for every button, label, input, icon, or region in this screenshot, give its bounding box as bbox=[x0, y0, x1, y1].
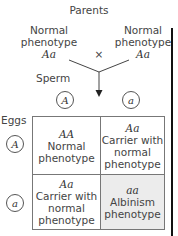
cell-phenotype-line: phenotype bbox=[38, 214, 94, 226]
cell-genotype: Aa bbox=[60, 178, 74, 190]
punnett-square: AA Normal phenotype Aa Carrier with norm… bbox=[32, 116, 165, 230]
egg-allele-a: a bbox=[6, 194, 24, 212]
page-edge-divider bbox=[171, 28, 173, 236]
cell-phenotype-line: phenotype bbox=[38, 152, 94, 164]
cell-phenotype-line: Normal bbox=[48, 140, 86, 152]
cell-phenotype-line: Albinism bbox=[110, 196, 155, 208]
cell-genotype: Aa bbox=[126, 122, 140, 134]
cell-phenotype-line: normal bbox=[48, 202, 85, 214]
cell-phenotype-line: phenotype bbox=[104, 158, 160, 170]
cross-arrow-icon bbox=[0, 0, 178, 110]
cell-phenotype-line: Carrier with bbox=[102, 134, 164, 146]
cell-phenotype-line: Carrier with bbox=[36, 190, 98, 202]
cell-genotype: AA bbox=[59, 128, 74, 140]
punnett-cell-Aa-top: Aa Carrier with normal phenotype bbox=[100, 117, 164, 174]
punnett-cell-AA: AA Normal phenotype bbox=[33, 117, 100, 174]
cell-genotype: aa bbox=[126, 184, 139, 196]
eggs-label: Eggs bbox=[1, 114, 26, 126]
egg-allele-A: A bbox=[6, 135, 24, 153]
cell-phenotype-line: phenotype bbox=[104, 208, 160, 220]
punnett-cell-aa: aa Albinism phenotype bbox=[100, 174, 164, 229]
cell-phenotype-line: normal bbox=[114, 146, 151, 158]
punnett-cell-Aa-bottom: Aa Carrier with normal phenotype bbox=[33, 174, 100, 229]
sperm-label: Sperm bbox=[36, 72, 70, 84]
sperm-allele-a: a bbox=[122, 91, 140, 109]
sperm-allele-A: A bbox=[56, 91, 74, 109]
